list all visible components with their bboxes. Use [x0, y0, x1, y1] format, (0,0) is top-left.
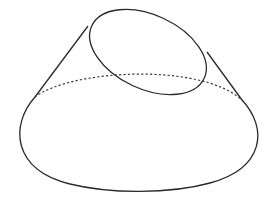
right-generatrix — [207, 52, 242, 100]
top-section-ellipse — [76, 0, 220, 112]
hidden-base-arc — [35, 74, 242, 100]
cone-frustum-figure — [0, 0, 270, 201]
left-generatrix — [35, 26, 88, 97]
base-ellipse-front — [20, 97, 258, 191]
diagram-canvas — [0, 0, 270, 201]
